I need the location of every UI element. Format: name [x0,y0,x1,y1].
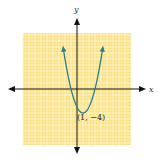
x-axis-left-arrow-icon [8,86,15,92]
parabola-graph: x y (1, −4) [0,0,158,158]
y-axis-bottom-arrow-icon [74,147,80,154]
y-axis-top-arrow-icon [74,18,80,25]
vertex-label: (1, −4) [77,113,105,122]
x-axis-label: x [149,85,154,94]
y-axis-label: y [73,5,79,14]
x-axis-right-arrow-icon [139,86,146,92]
